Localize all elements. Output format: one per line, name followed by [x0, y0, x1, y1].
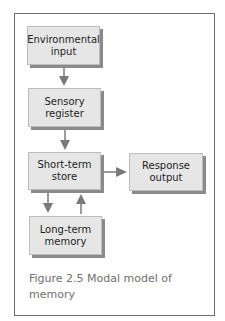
arrowhead-down-icon [43, 203, 53, 213]
arrowhead-up-icon [76, 194, 86, 204]
arrowhead-down-icon [59, 76, 69, 86]
figure-caption: Figure 2.5 Modal model of memory [29, 271, 209, 303]
arrowhead-right-icon [116, 167, 127, 177]
arrowhead-down-icon [60, 140, 70, 150]
